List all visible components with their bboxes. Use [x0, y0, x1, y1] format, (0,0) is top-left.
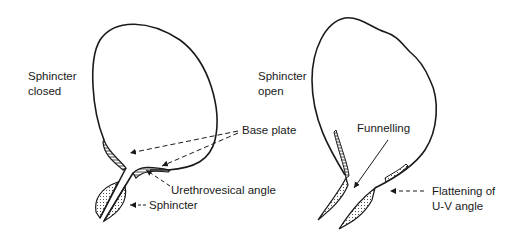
funnelling-label: Funnelling	[357, 122, 410, 134]
sphincter-label: Sphincter	[149, 199, 198, 211]
base-plate-label: Base plate	[242, 124, 296, 136]
diagram-canvas: Sphincter closed Base plate Urethrovesic…	[0, 0, 523, 240]
base-plate-pointers	[130, 131, 238, 166]
flattening-label-line1: Flattening of	[432, 185, 496, 197]
flattening-label-line2: U-V angle	[432, 200, 483, 212]
right-title-line2: open	[258, 85, 284, 97]
funnelling-pointer	[354, 140, 388, 188]
urethrovesical-angle-label: Urethrovesical angle	[171, 184, 276, 196]
left-title-line1: Sphincter	[28, 70, 77, 82]
left-title-line2: closed	[28, 85, 61, 97]
right-title-line1: Sphincter	[258, 70, 307, 82]
